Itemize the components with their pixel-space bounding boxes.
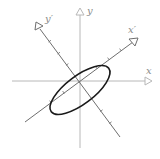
y-axis-label: y [86,5,93,16]
y-prime-axis-arrowhead-icon [35,22,43,30]
diagram-canvas: x y x′ y′ [0,0,160,159]
y-axis [76,8,84,148]
y-axis-arrowhead-icon [76,8,84,15]
x-axis-label: x [146,65,152,76]
y-prime-axis-label: y′ [44,13,54,24]
x-prime-axis-label: x′ [128,24,137,35]
x-prime-axis [25,38,138,122]
x-axis-arrowhead-icon [145,77,152,85]
x-prime-axis-arrowhead-icon [129,38,138,46]
rotated-axes-diagram: x y x′ y′ [0,0,160,159]
x-axis [12,77,152,85]
